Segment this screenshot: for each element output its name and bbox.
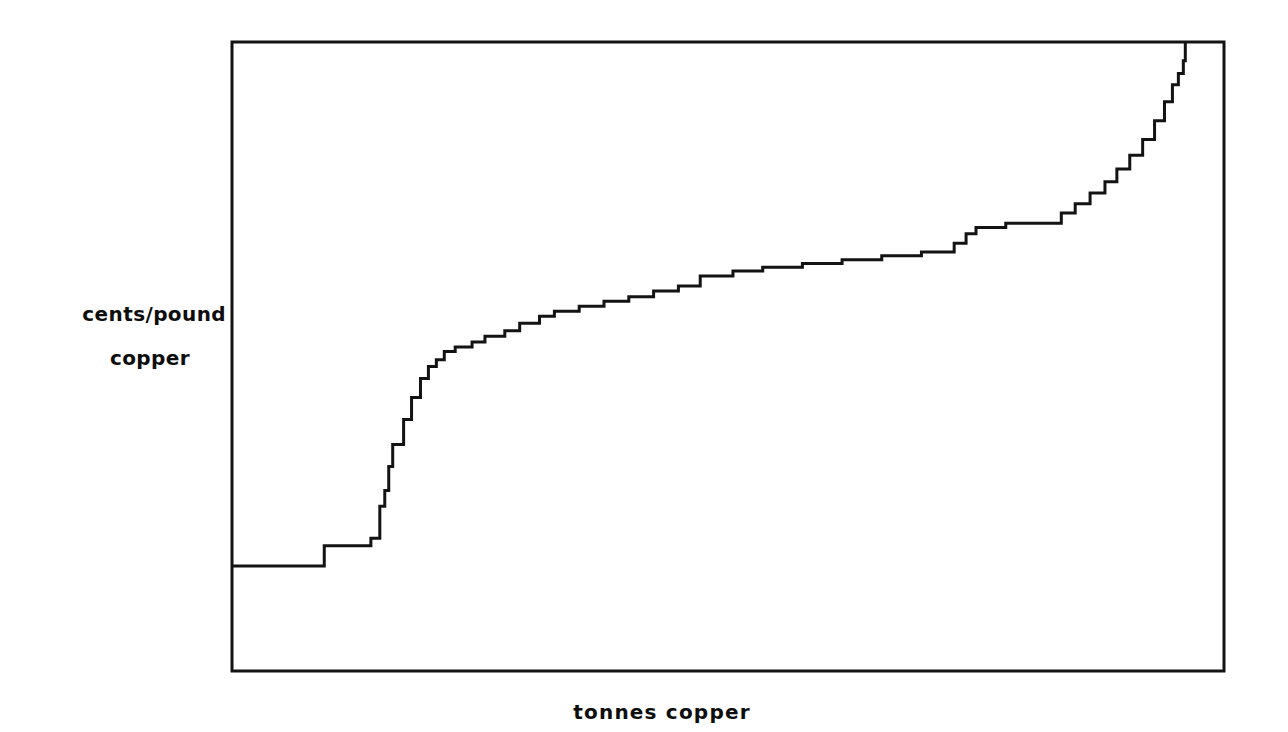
cost-curve-plot xyxy=(0,0,1288,732)
x-axis-label: tonnes copper xyxy=(466,700,858,724)
figure-container: cents/pound copper tonnes copper xyxy=(0,0,1288,732)
plot-frame xyxy=(232,42,1224,671)
supply-cost-curve-line xyxy=(232,42,1185,566)
